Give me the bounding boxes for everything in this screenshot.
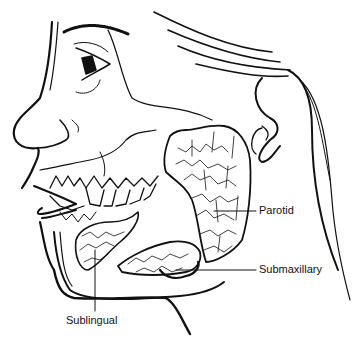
maxilla-line [40, 130, 156, 170]
cheekbone-line [108, 30, 212, 120]
face-profile [14, 22, 69, 188]
upper-teeth [50, 176, 158, 210]
parotid-label: Parotid [259, 204, 294, 216]
submaxillary-gland [118, 241, 200, 278]
sublingual-gland [76, 212, 139, 270]
eyebrow [64, 26, 128, 35]
submaxillary-label: Submaxillary [259, 263, 322, 275]
salivary-gland-diagram: Parotid Submaxillary Sublingual [0, 0, 356, 344]
eye [74, 42, 110, 93]
ear [252, 78, 280, 162]
hair [154, 12, 350, 300]
lips [34, 186, 76, 270]
head-illustration [0, 0, 356, 344]
nasolabial-line [72, 120, 79, 132]
sublingual-label: Sublingual [66, 314, 117, 326]
